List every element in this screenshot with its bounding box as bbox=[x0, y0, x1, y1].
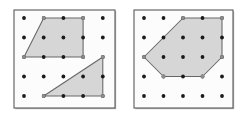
grid-dot bbox=[201, 55, 205, 59]
grid-dot bbox=[201, 94, 205, 98]
polygon-vertex-dot bbox=[42, 94, 46, 98]
grid-dot bbox=[22, 75, 26, 79]
polygon-vertex-dot bbox=[220, 16, 224, 20]
grid-dot bbox=[101, 16, 105, 20]
grid-dot bbox=[62, 75, 66, 79]
grid-dot bbox=[142, 75, 146, 79]
grid-dot bbox=[62, 94, 66, 98]
grid-dot bbox=[42, 55, 46, 59]
grid-dot bbox=[162, 94, 166, 98]
polygon-vertex-dot bbox=[81, 55, 85, 59]
grid-dot bbox=[201, 16, 205, 20]
grid-dot bbox=[142, 36, 146, 40]
grid-dot bbox=[81, 75, 85, 79]
grid-dot bbox=[22, 94, 26, 98]
grid-dot bbox=[62, 16, 66, 20]
polygon-vertex-dot bbox=[142, 55, 146, 59]
grid-dot bbox=[62, 55, 66, 59]
grid-dot bbox=[142, 16, 146, 20]
grid-dot bbox=[220, 36, 224, 40]
polygon-vertex-dot bbox=[201, 75, 205, 79]
polygon-vertex-dot bbox=[42, 16, 46, 20]
polygon-vertex-dot bbox=[101, 55, 105, 59]
grid-dot bbox=[181, 36, 185, 40]
polygon-vertex-dot bbox=[162, 75, 166, 79]
grid-dot bbox=[162, 36, 166, 40]
grid-dot bbox=[142, 94, 146, 98]
grid-dot bbox=[201, 36, 205, 40]
grid-dot bbox=[22, 36, 26, 40]
grid-dot bbox=[181, 55, 185, 59]
grid-dot bbox=[81, 94, 85, 98]
right-panel bbox=[134, 10, 234, 109]
grid-dot bbox=[181, 75, 185, 79]
polygon-vertex-dot bbox=[22, 55, 26, 59]
left-panel bbox=[14, 10, 116, 109]
grid-dot bbox=[62, 36, 66, 40]
geoboard-svg bbox=[0, 0, 237, 116]
polygon-vertex-dot bbox=[101, 94, 105, 98]
grid-dot bbox=[22, 16, 26, 20]
grid-dot bbox=[220, 75, 224, 79]
grid-dot bbox=[162, 55, 166, 59]
polygon-vertex-dot bbox=[81, 16, 85, 20]
grid-dot bbox=[101, 75, 105, 79]
grid-dot bbox=[42, 36, 46, 40]
grid-dot bbox=[101, 36, 105, 40]
polygon-vertex-dot bbox=[220, 55, 224, 59]
polygon-vertex-dot bbox=[181, 16, 185, 20]
grid-dot bbox=[42, 75, 46, 79]
grid-dot bbox=[220, 94, 224, 98]
grid-dot bbox=[162, 16, 166, 20]
geoboard-figure bbox=[0, 0, 237, 116]
grid-dot bbox=[181, 94, 185, 98]
grid-dot bbox=[81, 36, 85, 40]
